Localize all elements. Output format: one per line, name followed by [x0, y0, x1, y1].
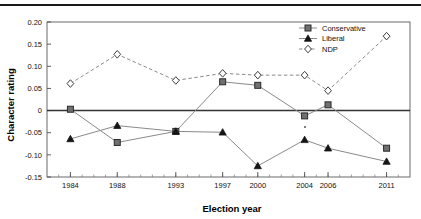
line-chart: 0.200.150.100.050-0.05-0.10-0.15 1984198… [0, 0, 421, 219]
data-point-marker-diamond [172, 77, 179, 85]
data-point-marker-diamond [254, 71, 261, 79]
data-point-marker-diamond [305, 45, 312, 53]
legend-item-conservative[interactable]: Conservative [299, 24, 366, 33]
data-point-marker-square [305, 25, 311, 31]
data-point-marker-diamond [67, 80, 74, 88]
data-point-marker-square [384, 145, 390, 151]
x-tick-label: 1984 [62, 181, 79, 190]
legend-label: Conservative [322, 24, 366, 33]
x-tick-label: 2006 [320, 181, 337, 190]
data-point-marker-diamond [219, 70, 226, 78]
data-point-marker-square [114, 139, 120, 145]
data-point-marker-square [67, 106, 73, 112]
x-tick-label: 2011 [379, 181, 395, 190]
y-tick-label: -0.05 [25, 128, 42, 137]
data-point-marker-diamond [383, 32, 390, 40]
x-axis-ticks-group: 19841988199319972000200420062011 [59, 172, 399, 190]
data-point-marker-triangle [114, 122, 121, 128]
x-tick-label: 2004 [296, 181, 313, 190]
y-tick-label: 0.10 [27, 62, 42, 71]
x-tick-label: 2000 [249, 181, 266, 190]
y-tick-label: 0.15 [27, 40, 42, 49]
y-axis-title: Character rating [5, 68, 16, 142]
data-point-marker-square [325, 102, 331, 108]
series-markers-group [67, 32, 390, 168]
axis-titles-group: Character rating Election year [5, 68, 262, 214]
x-tick-label: 1993 [167, 181, 184, 190]
plot-frame [47, 22, 410, 177]
data-point-marker-square [302, 113, 308, 119]
x-axis-title: Election year [202, 203, 261, 214]
data-point-marker-triangle [301, 136, 308, 142]
data-point-marker-diamond [325, 87, 332, 95]
legend-label: NDP [322, 45, 338, 54]
y-tick-label: -0.10 [25, 151, 42, 160]
y-tick-label: 0.05 [27, 84, 42, 93]
y-tick-label: -0.15 [25, 173, 42, 182]
legend-label: Liberal [322, 34, 345, 43]
data-point-marker-square [255, 82, 261, 88]
data-point-marker-diamond [114, 51, 121, 59]
legend-item-liberal[interactable]: Liberal [299, 34, 345, 43]
chart-figure: 0.200.150.100.050-0.05-0.10-0.15 1984198… [0, 0, 421, 219]
chart-legend: ConservativeLiberalNDP [299, 24, 366, 54]
data-point-marker-diamond [301, 71, 308, 79]
x-tick-label: 1997 [214, 181, 231, 190]
y-tick-label: 0 [38, 106, 42, 115]
data-point-marker-square [220, 79, 226, 85]
plot-frame-group [47, 22, 410, 177]
x-tick-label: 1988 [109, 181, 126, 190]
y-tick-label: 0.20 [27, 18, 42, 27]
legend-item-ndp[interactable]: NDP [299, 45, 338, 54]
scan-artifact-dot [304, 126, 306, 128]
